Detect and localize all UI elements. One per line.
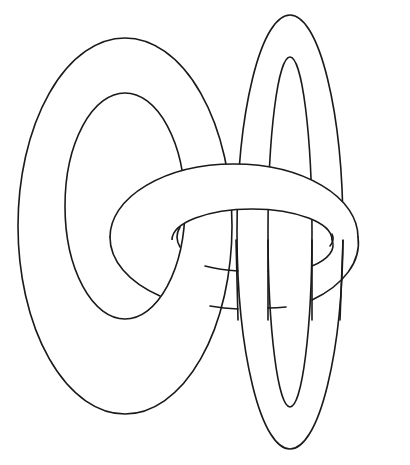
linked-rings-illustration <box>0 0 410 465</box>
figure-canvas: Three interlinked rings <box>0 0 410 465</box>
